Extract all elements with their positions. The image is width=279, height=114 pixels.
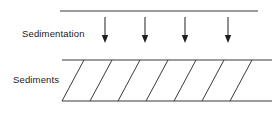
diagram-background xyxy=(0,0,279,114)
sedimentation-diagram: Sedimentation Sediments xyxy=(0,0,279,114)
sediments-label: Sediments xyxy=(13,74,59,85)
sedimentation-label: Sedimentation xyxy=(22,28,85,39)
diagram-canvas: Sedimentation Sediments xyxy=(0,0,279,114)
